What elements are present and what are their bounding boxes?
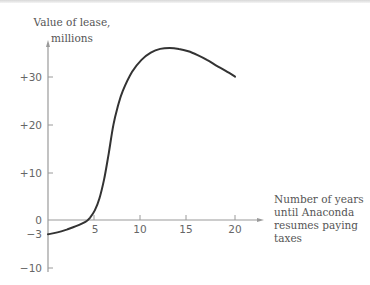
x-axis-label-line1: Number of years (274, 193, 364, 205)
y-ticks (48, 77, 53, 268)
y-tick-20: +20 (20, 119, 42, 131)
x-axis-label-line4: taxes (274, 232, 302, 244)
y-tick-minus3: −3 (27, 228, 42, 240)
y-axis-arrow-icon (46, 40, 50, 47)
y-axis-label-line2: millions (51, 32, 93, 44)
x-tick-5: 5 (92, 223, 99, 235)
y-tick-minus10: −10 (20, 262, 42, 274)
x-tick-20: 20 (228, 223, 241, 235)
y-tick-10: +10 (20, 167, 42, 179)
chart: Value of lease, millions +30 +20 +10 0 −… (0, 0, 370, 285)
y-tick-0: 0 (35, 214, 42, 226)
x-tick-15: 15 (179, 223, 192, 235)
y-tick-30: +30 (20, 71, 42, 83)
x-axis-arrow-icon (257, 218, 264, 222)
x-axis-label-line3: resumes paying (274, 219, 358, 231)
x-ticks (94, 215, 235, 220)
x-tick-10: 10 (133, 223, 146, 235)
lease-value-curve (48, 48, 235, 234)
x-axis-label-line2: until Anaconda (274, 206, 354, 218)
y-axis-label-line1: Value of lease, (33, 16, 111, 28)
